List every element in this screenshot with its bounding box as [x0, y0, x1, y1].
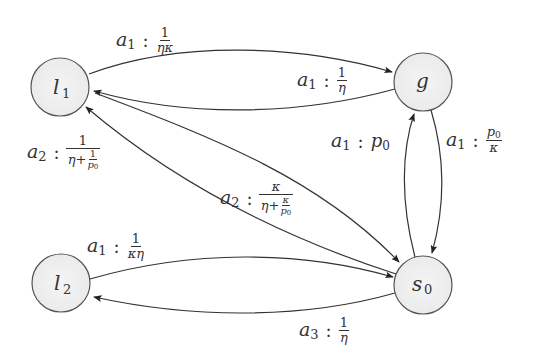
node-l1: l 1: [31, 58, 89, 116]
edge-label-s0-to-l2: a3 : 1 η: [299, 316, 349, 344]
node-g: g: [394, 53, 452, 111]
node-g-label: g: [416, 69, 429, 93]
edge-label-s0-to-l1: a2 : 1 η+ 1 p0: [27, 134, 99, 171]
edge-label-l2-to-s0: a1 : 1 κη: [87, 232, 145, 260]
edge-label-l1-to-s0: a2 : κ η+ κ p0: [220, 180, 292, 217]
edge-g-to-l1: [94, 89, 395, 110]
node-s0: s 0: [394, 256, 452, 314]
edge-label-s0-to-g: a1 : p0: [331, 129, 390, 153]
edge-g-to-s0: [431, 110, 442, 253]
edge-label-l1-to-g: a1 : 1 ηκ: [116, 26, 174, 54]
node-s0-sub: 0: [424, 282, 432, 297]
edge-label-g-to-l1: a1 : 1 η: [297, 66, 347, 94]
node-l2-label: l: [54, 271, 60, 295]
edge-s0-to-g: [404, 114, 415, 257]
node-l1-label: l: [53, 75, 59, 99]
node-s0-label: s: [412, 272, 422, 296]
node-l2-sub: 2: [63, 282, 71, 297]
edge-s0-to-l2: [94, 293, 395, 313]
node-l1-sub: 1: [62, 86, 70, 101]
node-l2: l 2: [32, 254, 90, 312]
edge-label-g-to-s0: a1 : p0 κ: [446, 125, 502, 155]
